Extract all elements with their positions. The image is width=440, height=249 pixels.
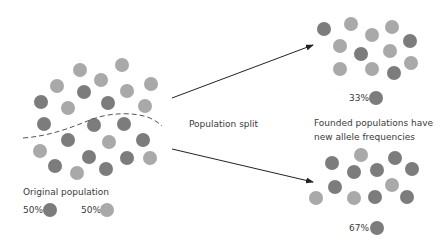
top-population-dark-percentage: 33% — [349, 91, 369, 105]
light-allele-circle — [138, 99, 152, 113]
dark-allele-circle — [317, 22, 331, 36]
dark-allele-circle — [400, 190, 414, 204]
light-allele-circle — [354, 148, 368, 162]
light-allele-circle — [120, 84, 134, 98]
dark-allele-circle — [388, 151, 402, 165]
dark-allele-circle — [48, 159, 62, 173]
founded-population-top — [317, 17, 418, 80]
dark-allele-circle — [61, 133, 75, 147]
light-allele-circle — [344, 17, 358, 31]
dark-allele-circle — [82, 150, 96, 164]
top-dark-allele-swatch — [369, 91, 383, 105]
original-dark-percentage: 50% — [23, 203, 43, 217]
bottom-population-dark-percentage: 67% — [349, 221, 369, 235]
light-allele-circle — [385, 20, 399, 34]
arrow-to-bottom-population — [172, 149, 313, 182]
dark-allele-circle — [77, 85, 91, 99]
light-allele-circle — [115, 58, 129, 72]
light-allele-circle — [347, 191, 361, 205]
dark-allele-circle — [347, 165, 361, 179]
light-allele-circle — [33, 144, 47, 158]
light-allele-circle — [102, 135, 116, 149]
light-allele-circle — [365, 28, 379, 42]
dark-allele-circle — [405, 162, 419, 176]
light-allele-circle — [61, 101, 75, 115]
dark-allele-circle — [37, 117, 51, 131]
light-allele-circle — [333, 39, 347, 53]
light-allele-circle — [383, 44, 397, 58]
arrow-to-top-population — [172, 45, 313, 98]
light-allele-circle — [144, 77, 158, 91]
dark-allele-circle — [328, 180, 342, 194]
light-allele-circle — [385, 178, 399, 192]
dark-allele-circle — [117, 117, 131, 131]
dark-allele-swatch — [43, 203, 57, 217]
light-allele-circle — [404, 56, 418, 70]
light-allele-circle — [73, 63, 87, 77]
founded-populations-label-line1: Founded populations have — [314, 116, 433, 130]
light-allele-swatch — [100, 203, 114, 217]
light-allele-circle — [143, 151, 157, 165]
light-allele-circle — [50, 79, 64, 93]
original-light-percentage: 50% — [81, 203, 101, 217]
original-population-label: Original population — [23, 185, 109, 199]
light-allele-circle — [70, 166, 84, 180]
light-allele-circle — [365, 62, 379, 76]
population-split-label: Population split — [189, 117, 258, 131]
dark-allele-circle — [325, 156, 339, 170]
dark-allele-circle — [101, 96, 115, 110]
dark-allele-circle — [354, 47, 368, 61]
founded-populations-label-line2: new allele frequencies — [314, 130, 415, 144]
dark-allele-circle — [387, 66, 401, 80]
bottom-dark-allele-swatch — [370, 221, 384, 235]
dark-allele-circle — [34, 95, 48, 109]
dark-allele-circle — [403, 34, 417, 48]
light-allele-circle — [333, 62, 347, 76]
split-arrows — [172, 45, 313, 182]
dark-allele-circle — [368, 190, 382, 204]
dark-allele-circle — [136, 133, 150, 147]
founded-population-bottom — [309, 148, 419, 205]
light-allele-circle — [309, 191, 323, 205]
dark-allele-circle — [370, 163, 384, 177]
light-allele-circle — [94, 73, 108, 87]
original-population — [33, 58, 158, 180]
dark-allele-circle — [99, 162, 113, 176]
dark-allele-circle — [120, 151, 134, 165]
